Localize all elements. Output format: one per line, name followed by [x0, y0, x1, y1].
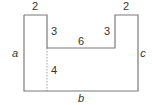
- label-inner-bottom-width: 6: [78, 35, 84, 47]
- label-top-left-width: 2: [32, 0, 38, 12]
- label-side-a: a: [12, 47, 18, 59]
- u-shape-outline: [24, 15, 138, 91]
- label-side-c: c: [140, 47, 146, 59]
- u-shape-diagram: 2 2 3 3 6 4 a c b: [0, 0, 152, 105]
- label-top-right-width: 2: [123, 0, 129, 12]
- label-right-notch-height: 3: [104, 25, 110, 37]
- label-side-b: b: [78, 92, 84, 104]
- label-dashed-height: 4: [51, 64, 57, 76]
- label-left-notch-height: 3: [51, 25, 57, 37]
